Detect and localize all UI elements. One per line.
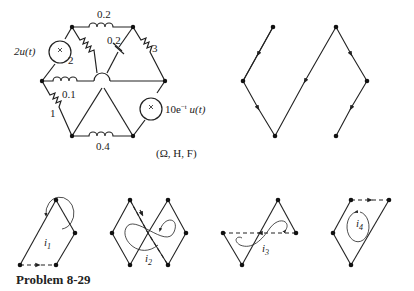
label-i4: i4 (356, 217, 363, 232)
oriented-graph (243, 27, 367, 136)
label-src1: 2u(t) (14, 45, 36, 58)
inductor-bottom (72, 132, 133, 136)
resistor-2 (72, 27, 97, 73)
resistor-3 (133, 27, 165, 81)
label-i2: i2 (145, 252, 152, 267)
loop-i3 (223, 200, 296, 265)
units-label: (Ω, H, F) (156, 147, 197, 159)
label-r3: 3 (152, 42, 158, 54)
label-r1: 1 (50, 107, 56, 119)
circuit-schematic (42, 23, 165, 136)
loop-i2 (112, 200, 186, 265)
label-l-bot: 0.4 (96, 140, 110, 152)
inductor-mid (42, 77, 94, 81)
loop-i4 (333, 200, 389, 265)
label-c-top: 0.2 (107, 34, 121, 46)
label-l-mid: 0.1 (62, 88, 76, 100)
problem-caption: Problem 8-29 (16, 272, 91, 288)
label-l-top: 0.2 (97, 8, 111, 20)
label-i3: i3 (262, 242, 269, 257)
circuit-figure: 0.2 2 0.2 3 2u(t) 0.1 1 0.4 10e−t u(t) i… (0, 0, 414, 291)
label-src2: 10e−t u(t) (165, 103, 206, 116)
current-source-10e (140, 98, 162, 120)
inductor-top (72, 23, 133, 27)
label-r2: 2 (68, 54, 74, 66)
loop-i1 (20, 197, 75, 265)
label-i1: i1 (44, 236, 51, 251)
